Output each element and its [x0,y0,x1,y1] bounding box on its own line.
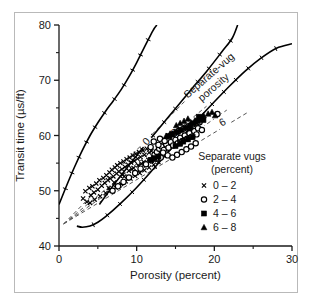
data-point-circle [132,170,137,175]
legend-title-line-2: (percent) [211,163,253,175]
x-tick-label: 20 [208,253,220,265]
legend-label-square: 4 – 6 [213,207,237,219]
y-tick-label: 50 [39,185,51,197]
legend-marker-triangle [201,224,207,229]
y-tick-label: 40 [39,240,51,252]
data-point-triangle [209,109,215,114]
x-tick-label: 0 [56,253,62,265]
x-axis-ticks: 0102030 [56,246,298,265]
data-point-triangle [185,116,191,121]
x-tick-label: 30 [286,253,298,265]
separate-vug-porosity-annotation: Separate-vugporosity [181,50,237,104]
legend-label-triangle: 6 – 8 [213,221,237,233]
data-point-circle [138,166,143,171]
data-point-square [156,154,161,159]
chart-figure: 40506070800102030Porosity (percent)Trans… [0,0,313,306]
data-point-cross [81,196,85,200]
data-point-square [185,137,190,142]
y-tick-label: 60 [39,130,51,142]
legend-label-circle: 2 – 4 [213,193,237,205]
data-point-cross [97,178,101,182]
y-axis-ticks: 4050607080 [39,19,59,252]
data-point-cross [96,188,100,192]
y-axis-title: Transit time (µs/ft) [14,89,26,182]
data-point-circle [193,141,198,146]
data-point-circle [199,127,204,132]
data-point-square [190,135,195,140]
data-point-square [178,141,183,146]
x-tick-label: 10 [131,253,143,265]
x-axis-title: Porosity (percent) [130,269,221,281]
y-tick-label: 70 [39,74,51,86]
data-point-circle [115,184,120,189]
y-tick-label: 80 [39,19,51,31]
data-point-circle [162,138,167,143]
plot-area: 0246Separate-vugporosity [59,25,292,227]
data-point-cross [98,194,102,198]
data-point-square [178,127,183,132]
data-point-circle [148,144,153,149]
chart-legend: Separate vugs(percent)0 – 22 – 44 – 66 –… [198,150,266,233]
data-point-circle [121,179,126,184]
data-point-circle [126,175,131,180]
data-point-cross [83,189,87,193]
legend-marker-square [202,211,207,216]
data-point-square [173,143,178,148]
legend-marker-cross [202,183,206,187]
legend-title-line-1: Separate vugs [198,150,266,162]
data-point-circle [156,142,161,147]
contour-line-2 [64,106,207,224]
data-point-circle [143,162,148,167]
legend-label-cross: 0 – 2 [213,179,237,191]
data-point-circle [110,188,115,193]
chart-plot-svg: 40506070800102030Porosity (percent)Trans… [0,0,313,306]
legend-marker-circle [201,197,206,202]
data-point-cross [142,153,146,157]
